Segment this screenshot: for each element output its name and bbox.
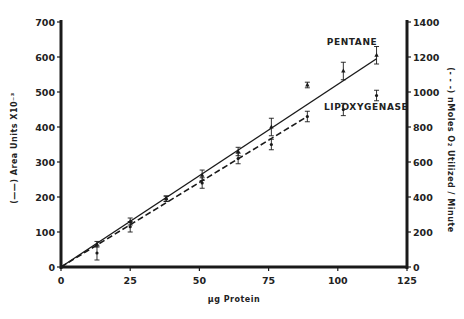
circle-marker	[270, 143, 273, 146]
x-tick-label: 50	[193, 275, 207, 286]
triangle-marker	[305, 83, 309, 87]
x-axis-title: µg Protein	[208, 295, 260, 304]
series-lipoxygenase	[61, 90, 379, 267]
circle-marker	[375, 94, 378, 97]
y-right-tick-label: 1200	[413, 52, 440, 63]
y-left-tick-label: 600	[35, 52, 55, 63]
y-right-tick-label: 1000	[413, 87, 440, 98]
y-right-tick-label: 200	[413, 227, 433, 238]
plot-area: PENTANELIPOXYGENASE	[61, 37, 408, 267]
circle-marker	[306, 115, 309, 118]
circle-marker	[237, 157, 240, 160]
y-left-tick-label: 500	[35, 87, 55, 98]
y-left-tick-label: 700	[35, 17, 55, 28]
y-axis-left-title: (——) Area Units X10⁻³	[10, 92, 19, 204]
circle-marker	[95, 251, 98, 254]
fit-line	[61, 59, 377, 267]
y-right-tick-label: 400	[413, 192, 433, 203]
circle-marker	[165, 197, 168, 200]
y-right-tick-label: 800	[413, 122, 433, 133]
series-pentane	[61, 47, 379, 268]
circle-marker	[129, 225, 132, 228]
triangle-marker	[374, 53, 378, 57]
triangle-marker	[341, 69, 345, 73]
y-left-tick-label: 300	[35, 157, 55, 168]
y-axis-right-title: (- - -) nMoles O₂ Utilized / Minute	[446, 67, 455, 232]
x-tick-label: 0	[58, 275, 65, 286]
annotation-lipoxygenase: LIPOXYGENASE	[324, 102, 408, 112]
y-left-tick-label: 400	[35, 122, 55, 133]
chart: PENTANELIPOXYGENASE 02550751001250100200…	[0, 0, 464, 319]
x-tick-label: 125	[397, 275, 417, 286]
y-left-tick-label: 100	[35, 227, 55, 238]
y-right-tick-label: 1400	[413, 17, 440, 28]
circle-marker	[201, 181, 204, 184]
y-right-tick-label: 0	[413, 262, 420, 273]
x-tick-label: 25	[124, 275, 137, 286]
y-right-tick-label: 600	[413, 157, 433, 168]
y-left-tick-label: 200	[35, 192, 55, 203]
annotation-pentane: PENTANE	[327, 37, 378, 47]
x-tick-label: 100	[328, 275, 348, 286]
y-left-tick-label: 0	[48, 262, 55, 273]
x-tick-label: 75	[262, 275, 275, 286]
